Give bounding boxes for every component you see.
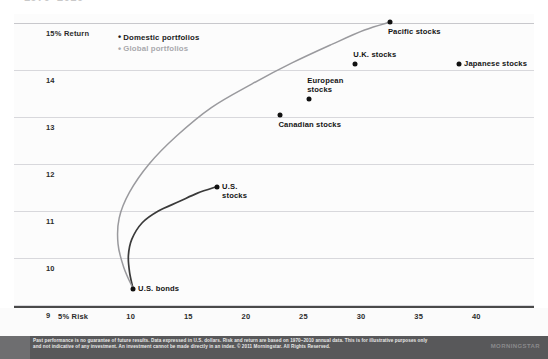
- footer-left-block: [0, 336, 30, 359]
- plot-area: 15% Return14131211109: [0, 14, 548, 308]
- y-axis-tick-11: 11: [46, 217, 54, 226]
- data-point-u-s-bonds[interactable]: [131, 286, 136, 291]
- x-axis-tick-30: 30: [357, 312, 366, 321]
- chart-legend: •Domestic portfolios •Global portfolios: [118, 32, 199, 55]
- y-axis-tick-10: 10: [46, 264, 55, 273]
- chart-title-ghost: 1970–2010: [24, 0, 84, 3]
- plot-left-margin: [0, 14, 14, 308]
- legend-marker-domestic-icon: •: [118, 32, 121, 42]
- footer-disclaimer: Past performance is no guarantee of futu…: [33, 338, 433, 351]
- data-label-canadian-stocks: Canadian stocks: [278, 120, 341, 129]
- gridline-y-14: [14, 70, 534, 71]
- y-axis-tick-15: 15% Return: [46, 29, 89, 38]
- x-axis-tick-15: 15: [184, 312, 193, 321]
- x-axis-tick-10: 10: [126, 312, 135, 321]
- legend-label-global: Global portfolios: [123, 44, 188, 53]
- data-point-european-stocks[interactable]: [307, 97, 312, 102]
- y-axis-tick-14: 14: [46, 76, 55, 85]
- x-axis-tick-5: 5% Risk: [58, 312, 88, 321]
- data-point-u-k-stocks[interactable]: [353, 62, 358, 67]
- data-point-canadian-stocks[interactable]: [278, 112, 283, 117]
- legend-item-global: •Global portfolios: [118, 43, 199, 54]
- gridline-y-11: [14, 211, 534, 212]
- data-label-u-k-stocks: U.K. stocks: [353, 50, 396, 59]
- data-label-u-s-bonds: U.S. bonds: [138, 284, 179, 293]
- x-axis-tick-25: 25: [299, 312, 308, 321]
- data-label-european-stocks: European stocks: [307, 76, 343, 94]
- legend-label-domestic: Domestic portfolios: [123, 33, 199, 42]
- gridline-y-12: [14, 164, 534, 165]
- data-point-pacific-stocks[interactable]: [387, 20, 392, 25]
- title-strip: 1970–2010: [0, 0, 548, 14]
- y-axis-tick-12: 12: [46, 170, 55, 179]
- data-label-pacific-stocks: Pacific stocks: [388, 27, 441, 36]
- chart-footer: Past performance is no guarantee of futu…: [0, 336, 548, 359]
- data-label-japanese-stocks: Japanese stocks: [464, 59, 527, 68]
- x-axis-tick-40: 40: [472, 312, 481, 321]
- risk-return-chart-figure: 1970–2010 15% Return14131211109 •Domesti…: [0, 0, 548, 359]
- x-axis-line: [14, 306, 534, 308]
- legend-item-domestic: •Domestic portfolios: [118, 32, 199, 43]
- x-axis-tick-35: 35: [414, 312, 423, 321]
- gridline-y-9: [14, 305, 534, 306]
- gridline-y-13: [14, 117, 534, 118]
- data-label-u-s-stocks: U.S. stocks: [222, 182, 247, 200]
- legend-marker-global-icon: •: [118, 44, 121, 54]
- plot-inner: 15% Return14131211109: [14, 14, 534, 308]
- x-axis-tick-20: 20: [242, 312, 251, 321]
- gridline-y-10: [14, 258, 534, 259]
- y-axis-tick-13: 13: [46, 123, 55, 132]
- plot-right-margin: [534, 14, 548, 308]
- y-axis-tick-9: 9: [46, 311, 50, 320]
- data-point-japanese-stocks[interactable]: [457, 62, 462, 67]
- data-point-u-s-stocks[interactable]: [215, 184, 220, 189]
- gridline-y-15: [14, 23, 534, 24]
- morningstar-logo: MORNINGSTAR: [491, 343, 540, 349]
